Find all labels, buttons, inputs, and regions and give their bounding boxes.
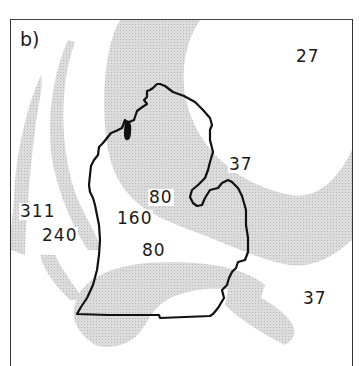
shaded-bands [11,20,352,347]
contour-label-37-southeast: 37 [302,290,328,307]
contour-label-160: 160 [116,210,153,227]
contour-label-37-north: 37 [228,156,254,173]
contour-label-27: 27 [295,48,321,65]
contour-label-80-south: 80 [141,242,167,259]
contour-label-80-north: 80 [148,189,174,206]
panel-label: b) [20,30,39,49]
contour-label-240: 240 [41,227,78,244]
contour-label-311: 311 [19,203,56,220]
